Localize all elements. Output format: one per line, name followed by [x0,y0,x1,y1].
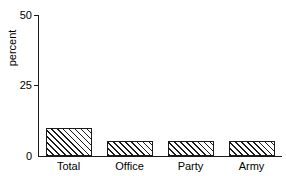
y-tick-mark-50 [34,15,39,16]
bar-total [46,128,92,156]
bar-chart-figure: percent 50 25 0 Total Office Party Army [0,0,286,176]
y-tick-label-25: 25 [0,80,32,90]
x-axis-label-office: Office [99,159,160,173]
y-tick-label-wrap-50: 50 [0,10,32,20]
y-tick-label-0: 0 [0,151,32,161]
x-axis-label-army: Army [221,159,282,173]
x-axis-label-party: Party [160,159,221,173]
x-axis-line [38,156,282,157]
y-tick-mark-25 [34,85,39,86]
bar-army [229,141,275,156]
bar-party [168,141,214,156]
x-axis-label-total: Total [38,159,99,173]
y-tick-label-50: 50 [0,10,32,20]
bar-office [107,141,153,156]
plot-area: percent 50 25 0 Total Office Party Army [0,0,286,176]
y-tick-label-wrap-0: 0 [0,151,32,161]
y-axis-label: percent [4,18,20,78]
y-tick-label-wrap-25: 25 [0,80,32,90]
